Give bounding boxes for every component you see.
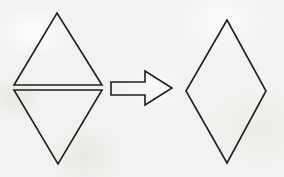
geometry-diagram [0,0,284,177]
figure-canvas [0,0,284,177]
upper-triangle [14,13,102,85]
right-shape-group [186,20,266,163]
lower-triangle [14,90,102,164]
arrow-right-icon [111,71,172,105]
arrow-group [111,71,172,105]
rhombus [186,20,266,163]
left-shape-group [14,13,102,164]
